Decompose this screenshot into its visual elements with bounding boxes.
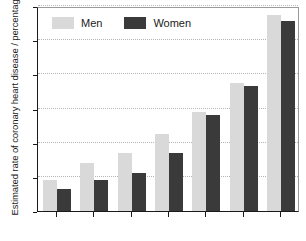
legend-swatch-women [124,17,146,29]
y-axis-tick-mark [33,110,37,111]
y-axis-tick-mark [33,144,37,145]
x-axis-tick-mark [243,212,244,217]
x-axis-tick-mark [205,212,206,217]
bar-women-group-6 [244,86,258,211]
plot-inner [38,8,298,211]
x-axis-tick-mark [131,212,132,217]
legend-item-women: Women [124,17,191,29]
x-axis-tick-mark [93,212,94,217]
y-axis-title: Estimated rate of coronary heart disease… [9,0,20,216]
bar-women-group-5 [206,115,220,211]
bars-group [38,8,298,211]
bar-women-group-2 [94,180,108,211]
y-axis-tick-mark [33,41,37,42]
bar-men-group-3 [118,153,132,211]
bar-women-group-3 [132,173,146,211]
x-axis-tick-mark [56,212,57,217]
gridline [38,5,298,6]
legend-swatch-men [52,17,74,29]
plot-area [37,7,299,212]
chart-figure: Estimated rate of coronary heart disease… [0,0,306,241]
bar-men-group-6 [230,83,244,211]
bar-women-group-4 [169,153,183,211]
bar-women-group-7 [281,21,295,211]
bar-women-group-1 [57,189,71,211]
legend-label-men: Men [81,18,102,29]
x-axis-tick-mark [168,212,169,217]
bar-men-group-4 [155,134,169,211]
legend-label-women: Women [153,18,191,29]
bar-men-group-2 [80,163,94,211]
y-axis-tick-mark [33,178,37,179]
bar-men-group-7 [267,15,281,211]
x-axis-tick-mark [280,212,281,217]
y-axis-tick-mark [33,75,37,76]
bar-men-group-1 [43,180,57,211]
y-axis-tick-mark [33,7,37,8]
legend-item-men: Men [52,17,102,29]
chart-legend: MenWomen [52,17,191,29]
bar-men-group-5 [192,112,206,211]
y-axis-tick-mark [33,212,37,213]
